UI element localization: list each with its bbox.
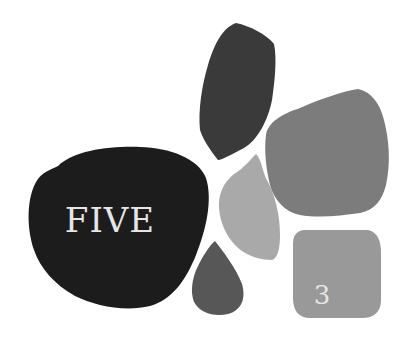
stone-gray-large [265, 89, 389, 216]
stone-label-five: FIVE [65, 200, 155, 240]
stone-teardrop [192, 241, 244, 315]
stone-label-three: 3 [314, 280, 331, 310]
stones-illustration: FIVE 3 [0, 0, 414, 344]
stone-square-gray [293, 230, 381, 318]
stone-dark-top [199, 23, 275, 160]
